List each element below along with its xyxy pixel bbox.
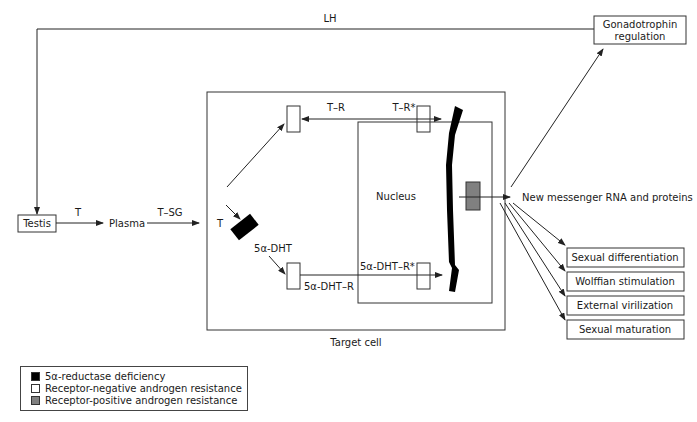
t-cell-label: T xyxy=(216,218,224,229)
androgen-action-diagram: LH Gonadotrophin regulation Testis T Pla… xyxy=(0,0,697,422)
dht-label: 5α-DHT xyxy=(254,243,293,254)
legend-item-receptor-positive: Receptor-positive androgen resistance xyxy=(31,394,247,406)
legend-item-receptor-negative: Receptor-negative androgen resistance xyxy=(31,382,247,394)
t-sg-label: T–SG xyxy=(156,207,182,218)
legend: 5α-reductase deficiency Receptor-negativ… xyxy=(20,366,248,411)
white-swatch-icon xyxy=(31,384,40,393)
outcome-external-virilization: External virilization xyxy=(567,296,684,315)
legend-label: 5α-reductase deficiency xyxy=(45,371,165,382)
gonadotrophin-label-line1: Gonadotrophin xyxy=(603,19,678,30)
legend-item-reductase: 5α-reductase deficiency xyxy=(31,370,247,382)
svg-text:Sexual differentiation: Sexual differentiation xyxy=(571,252,678,263)
svg-text:External virilization: External virilization xyxy=(577,300,673,311)
outcome-sexual-differentiation: Sexual differentiation xyxy=(567,248,684,267)
target-cell-label: Target cell xyxy=(329,337,381,348)
outcome-arrow-4 xyxy=(500,203,565,320)
outcome-wolffian-stimulation: Wolffian stimulation xyxy=(567,272,684,291)
lh-label: LH xyxy=(323,13,336,24)
t-arrow-label: T xyxy=(74,207,82,218)
legend-label: Receptor-negative androgen resistance xyxy=(45,383,242,394)
gonadotrophin-arrow xyxy=(511,49,603,187)
t-r-label: T–R xyxy=(326,102,345,113)
outcome-arrow-2 xyxy=(509,203,565,271)
testis-label: Testis xyxy=(22,218,51,229)
legend-label: Receptor-positive androgen resistance xyxy=(45,395,237,406)
nucleus-label: Nucleus xyxy=(376,191,416,202)
nucleus-box xyxy=(358,122,492,303)
dht-r-star-label: 5α-DHT–R* xyxy=(360,261,415,272)
grey-swatch-icon xyxy=(31,396,40,405)
plasma-label: Plasma xyxy=(109,218,145,229)
receptor-positive-block xyxy=(466,182,480,210)
svg-text:Sexual maturation: Sexual maturation xyxy=(579,324,671,335)
t-r-receptor-box xyxy=(287,106,300,132)
gonadotrophin-label-line2: regulation xyxy=(615,31,666,42)
outcome-sexual-maturation: Sexual maturation xyxy=(567,320,684,339)
t-r-star-label: T–R* xyxy=(391,102,415,113)
outcome-arrow-3 xyxy=(505,203,565,296)
dht-r-label: 5α-DHT–R xyxy=(304,281,354,292)
dht-r-receptor-box xyxy=(287,263,300,289)
svg-text:Wolffian stimulation: Wolffian stimulation xyxy=(575,276,675,287)
new-rna-label: New messenger RNA and proteins xyxy=(522,192,693,203)
black-swatch-icon xyxy=(31,372,40,381)
